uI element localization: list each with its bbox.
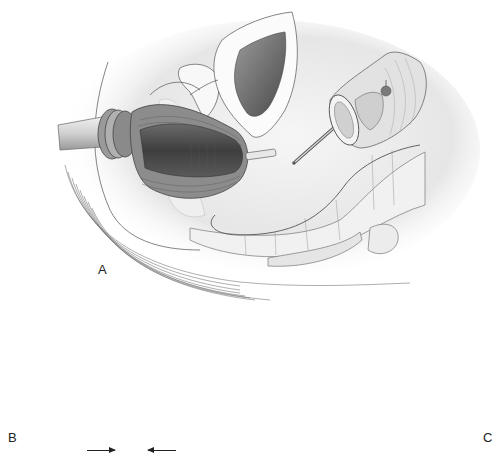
panel-label-b: B [8,430,17,445]
figure-illustration [0,0,501,462]
panel-label-c: C [483,430,492,445]
panel-label-a: A [98,262,107,277]
anvil-knob [381,86,391,96]
panel-a [58,12,480,300]
arrow-right-icon [87,450,115,451]
arrow-left-icon [148,450,176,451]
